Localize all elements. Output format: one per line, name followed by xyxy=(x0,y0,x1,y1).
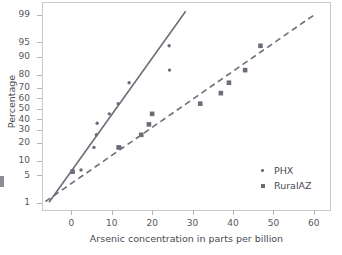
y-tick-mark xyxy=(37,57,42,58)
x-tick-label: 30 xyxy=(178,219,208,228)
phx-marker-icon xyxy=(258,169,267,172)
y-tick-mark xyxy=(37,143,42,144)
data-point-ruralaz xyxy=(198,101,203,106)
x-tick-label: 50 xyxy=(258,219,288,228)
data-point-ruralaz xyxy=(243,68,248,73)
data-point-phx xyxy=(79,168,82,171)
y-tick-mark xyxy=(37,42,42,43)
y-tick-mark xyxy=(37,98,42,99)
data-point-ruralaz xyxy=(258,44,263,49)
data-point-phx xyxy=(92,146,95,149)
legend-item-phx[interactable]: PHX xyxy=(258,163,312,178)
y-tick-label: 90 xyxy=(4,52,30,61)
y-tick-mark xyxy=(37,203,42,204)
y-tick-label: 95 xyxy=(4,38,30,47)
x-tick-mark xyxy=(273,210,274,215)
data-point-phx xyxy=(116,102,119,105)
data-point-ruralaz xyxy=(219,91,224,96)
data-point-phx xyxy=(167,44,170,47)
y-tick-label: 1 xyxy=(4,198,30,207)
y-axis-title: Percentage xyxy=(6,67,17,137)
data-point-ruralaz xyxy=(70,169,75,174)
y-tick-label: 5 xyxy=(4,171,30,180)
x-tick-label: 10 xyxy=(97,219,127,228)
y-tick-mark xyxy=(37,88,42,89)
data-point-ruralaz xyxy=(150,112,155,117)
y-tick-mark xyxy=(37,175,42,176)
data-point-phx xyxy=(95,122,98,125)
data-point-phx xyxy=(127,81,130,84)
y-tick-label: 20 xyxy=(4,138,30,147)
data-point-ruralaz xyxy=(116,145,121,150)
y-tick-mark xyxy=(37,119,42,120)
y-tick-mark xyxy=(37,15,42,16)
data-point-phx xyxy=(108,112,111,115)
chart-root: 151020304050607080909599 0102030405060 P… xyxy=(0,0,342,255)
x-tick-label: 60 xyxy=(299,219,329,228)
legend-label-ruralaz: RuralAZ xyxy=(274,181,312,191)
y-tick-mark xyxy=(37,161,42,162)
chart-legend: PHX RuralAZ xyxy=(258,163,312,193)
trend-line-phx xyxy=(49,11,186,202)
x-tick-mark xyxy=(193,210,194,215)
data-point-ruralaz xyxy=(227,80,232,85)
x-tick-label: 40 xyxy=(218,219,248,228)
data-point-phx xyxy=(168,68,171,71)
data-point-ruralaz xyxy=(147,122,152,127)
data-point-phx xyxy=(95,133,98,136)
x-tick-mark xyxy=(71,210,72,215)
x-tick-mark xyxy=(112,210,113,215)
data-point-ruralaz xyxy=(139,133,144,138)
y-tick-label: 10 xyxy=(4,156,30,165)
legend-label-phx: PHX xyxy=(274,166,293,176)
x-tick-mark xyxy=(314,210,315,215)
ruralaz-marker-icon xyxy=(258,184,267,188)
x-tick-mark xyxy=(233,210,234,215)
legend-item-ruralaz[interactable]: RuralAZ xyxy=(258,178,312,193)
y-tick-mark xyxy=(37,130,42,131)
y-tick-label: 99 xyxy=(4,10,30,19)
y-tick-mark xyxy=(37,75,42,76)
x-tick-label: 20 xyxy=(137,219,167,228)
x-axis-title: Arsenic concentration in parts per billi… xyxy=(42,233,331,244)
y-tick-mark xyxy=(37,109,42,110)
x-tick-mark xyxy=(152,210,153,215)
x-tick-label: 0 xyxy=(56,219,86,228)
